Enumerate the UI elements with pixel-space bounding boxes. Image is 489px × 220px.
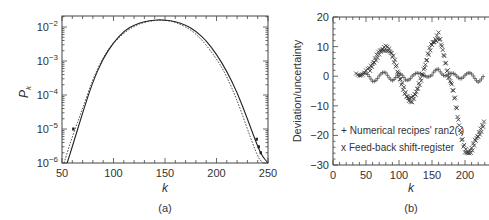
cross-marker-icon [427, 53, 431, 57]
panel-b-chart: 050100150200 20100−10−20−30 k Deviation/… [291, 11, 489, 214]
panel-b-legend: +Numerical recipes' ran2( ) xFeed-back s… [341, 125, 464, 153]
cross-marker-icon [368, 69, 372, 73]
y-tick-label: 0 [323, 70, 329, 82]
y-tick-label: −20 [310, 129, 329, 141]
cross-marker-icon [441, 48, 445, 52]
cross-marker-icon [423, 63, 427, 67]
legend-item-ran2: +Numerical recipes' ran2( ) [341, 125, 464, 136]
x-tick-label: 200 [207, 167, 225, 179]
x-tick-label: 100 [104, 167, 122, 179]
panel-a-chart: 50100150200250 10−610−510−410−310−2 k Pk… [17, 16, 277, 214]
y-tick-label: 10−2 [37, 19, 59, 33]
legend-label-ran2: Numerical recipes' ran2( ) [350, 125, 464, 136]
outlier-marker [260, 151, 262, 154]
y-tick-label: 20 [317, 11, 329, 23]
panel-a-y-tick-labels: 10−610−510−410−310−2 [37, 19, 59, 169]
outlier-marker [72, 128, 74, 131]
x-tick-label: 50 [360, 169, 372, 181]
outlier-marker [255, 138, 257, 141]
cross-marker-icon [423, 66, 427, 70]
x-tick-label: 50 [56, 167, 68, 179]
simulation-curve [64, 20, 263, 163]
panel-a-y-axis-label: Pk [17, 85, 33, 98]
panel-b-x-axis-label: k [408, 181, 415, 195]
figure: 50100150200250 10−610−510−410−310−2 k Pk… [0, 0, 489, 220]
y-tick-label: −10 [310, 100, 329, 112]
x-tick-label: 150 [423, 169, 441, 181]
panel-a-y-label-sub: k [24, 85, 33, 90]
x-tick-label: 100 [390, 169, 408, 181]
cross-marker-icon [449, 81, 453, 85]
x-tick-label: 200 [456, 169, 474, 181]
panel-b-data-points [354, 30, 486, 155]
theory-curve [67, 20, 268, 163]
panel-b-y-tick-labels: 20100−10−20−30 [310, 11, 329, 171]
y-tick-label: 10−3 [37, 53, 59, 67]
y-tick-label: 10−4 [37, 87, 59, 101]
legend-marker-cross-icon: x [341, 142, 346, 153]
panel-a-caption: (a) [158, 202, 171, 214]
panel-b-caption: (b) [404, 202, 417, 214]
x-tick-label: 0 [330, 169, 336, 181]
panel-a-curves [64, 20, 268, 163]
panel-b-y-axis-label: Deviation/uncertainty [291, 39, 303, 142]
panel-b-x-tick-labels: 050100150200 [330, 169, 474, 181]
y-tick-label: 10 [317, 41, 329, 53]
outlier-marker [258, 145, 260, 148]
legend-item-shift-register: xFeed-back shift-register [341, 142, 455, 153]
panel-a-plot-frame [62, 16, 268, 163]
legend-label-shift-register: Feed-back shift-register [349, 142, 455, 153]
svg-text:Pk: Pk [17, 85, 33, 98]
panel-a-y-label-main: P [17, 90, 31, 98]
panel-a-x-tick-labels: 50100150200250 [56, 167, 277, 179]
x-tick-label: 250 [259, 167, 277, 179]
x-tick-label: 150 [156, 167, 174, 179]
panel-a-x-axis-label: k [162, 181, 169, 195]
cross-marker-icon [404, 90, 408, 94]
panel-a-ticks [62, 16, 268, 163]
y-tick-label: 10−5 [37, 121, 59, 135]
y-tick-label: −30 [310, 159, 329, 171]
legend-marker-plus-icon: + [341, 125, 347, 136]
